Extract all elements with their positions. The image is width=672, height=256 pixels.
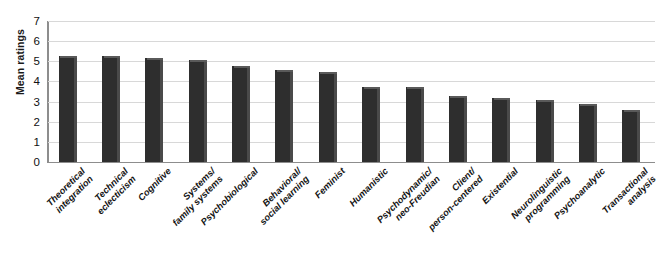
bar-side-shading bbox=[74, 58, 77, 162]
bar-face bbox=[579, 104, 594, 162]
bar-top-shading bbox=[104, 56, 121, 58]
bar-side-shading bbox=[421, 89, 424, 162]
bar-side-shading bbox=[290, 72, 293, 162]
y-tick-label: 3 bbox=[22, 96, 40, 108]
bar bbox=[102, 56, 120, 162]
bar-slot bbox=[136, 21, 176, 162]
bar-side-shading bbox=[117, 58, 120, 162]
bar-slot bbox=[223, 21, 263, 162]
bar-slot bbox=[50, 21, 90, 162]
bar-side-shading bbox=[637, 112, 640, 162]
bar-top-shading bbox=[407, 87, 424, 89]
bar-top-shading bbox=[537, 100, 554, 102]
x-tick-label-line: Feminist bbox=[313, 166, 347, 200]
bar-side-shading bbox=[507, 100, 510, 162]
bar-side-shading bbox=[247, 68, 250, 162]
bar-face bbox=[449, 96, 464, 162]
bar-top-shading bbox=[320, 72, 337, 74]
bar-face bbox=[492, 98, 507, 162]
bar-series bbox=[48, 21, 655, 162]
bar-chart: Mean ratings 01234567 Theoreticalintegra… bbox=[0, 0, 672, 256]
y-tick-label: 1 bbox=[22, 136, 40, 148]
bar-face bbox=[189, 60, 204, 162]
bar bbox=[145, 58, 163, 162]
y-tick-label: 5 bbox=[22, 55, 40, 67]
bar-top-shading bbox=[364, 87, 381, 89]
bar-slot bbox=[397, 21, 437, 162]
bar-face bbox=[59, 56, 74, 162]
bar-face bbox=[145, 58, 160, 162]
y-tick-label: 7 bbox=[22, 15, 40, 27]
y-tick-label: 6 bbox=[22, 35, 40, 47]
bar-slot bbox=[483, 21, 523, 162]
x-tick-label: Theoreticalintegration bbox=[45, 166, 95, 216]
x-tick-label: Transactionalanalysis bbox=[601, 166, 658, 223]
bar-slot bbox=[180, 21, 220, 162]
bar-top-shading bbox=[450, 96, 467, 98]
x-tick-label: Existential bbox=[480, 166, 520, 206]
x-tick-label: Cognitive bbox=[136, 166, 173, 203]
bar bbox=[406, 87, 424, 162]
x-tick-label: Technicaleclecticism bbox=[88, 166, 138, 216]
x-tick-label-line: Humanistic bbox=[348, 166, 391, 209]
bar-face bbox=[362, 87, 377, 162]
x-tick-label: Humanistic bbox=[348, 166, 391, 209]
bar-face bbox=[622, 110, 637, 162]
bar-top-shading bbox=[60, 56, 77, 58]
bar bbox=[275, 70, 293, 162]
bar-side-shading bbox=[551, 102, 554, 162]
bar bbox=[189, 60, 207, 162]
bar bbox=[362, 87, 380, 162]
bar bbox=[449, 96, 467, 162]
bar-face bbox=[406, 87, 421, 162]
bar-slot bbox=[266, 21, 306, 162]
x-tick-label-line: Existential bbox=[480, 166, 520, 206]
x-axis-labels: TheoreticalintegrationTechnicaleclectici… bbox=[48, 166, 655, 256]
bar-face bbox=[536, 100, 551, 162]
bar-side-shading bbox=[377, 89, 380, 162]
bar-slot bbox=[440, 21, 480, 162]
x-tick-label: Feminist bbox=[313, 166, 347, 200]
bar-slot bbox=[353, 21, 393, 162]
bar-top-shading bbox=[494, 98, 511, 100]
bar-side-shading bbox=[594, 106, 597, 162]
bar bbox=[319, 72, 337, 162]
bar-slot bbox=[93, 21, 133, 162]
bar-top-shading bbox=[234, 66, 251, 68]
bar-face bbox=[319, 72, 334, 162]
bar-slot bbox=[570, 21, 610, 162]
bar-face bbox=[232, 66, 247, 162]
bar-top-shading bbox=[624, 110, 641, 112]
y-tick-label: 4 bbox=[22, 75, 40, 87]
bar-face bbox=[102, 56, 117, 162]
bar-slot bbox=[527, 21, 567, 162]
x-tick-label-line: Cognitive bbox=[136, 166, 173, 203]
bar-top-shading bbox=[580, 104, 597, 106]
y-tick-label: 2 bbox=[22, 116, 40, 128]
bar-side-shading bbox=[160, 60, 163, 162]
x-tick-label: Behavioral/social learning bbox=[250, 166, 311, 227]
bar-top-shading bbox=[190, 60, 207, 62]
x-tick-label: Systems/family systems bbox=[163, 166, 225, 228]
bar bbox=[232, 66, 250, 162]
bar-top-shading bbox=[277, 70, 294, 72]
bar bbox=[622, 110, 640, 162]
bar-top-shading bbox=[147, 58, 164, 60]
plot-area bbox=[48, 21, 655, 162]
y-tick-label: 0 bbox=[22, 156, 40, 168]
bar-side-shading bbox=[334, 74, 337, 162]
bar-side-shading bbox=[204, 62, 207, 162]
bar-slot bbox=[310, 21, 350, 162]
bar-face bbox=[275, 70, 290, 162]
bar-side-shading bbox=[464, 98, 467, 162]
bar-slot bbox=[613, 21, 653, 162]
bar bbox=[536, 100, 554, 162]
bar bbox=[59, 56, 77, 162]
bar bbox=[579, 104, 597, 162]
bar bbox=[492, 98, 510, 162]
